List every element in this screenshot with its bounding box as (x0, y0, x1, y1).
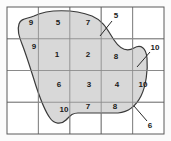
cell-number: 7 (86, 19, 90, 27)
cell-number: 10 (139, 81, 148, 89)
figure-canvas: 9579128634101078 5106 (0, 0, 171, 141)
cell-number: 9 (32, 43, 36, 51)
cell-number: 4 (115, 81, 119, 89)
cell-number: 1 (55, 51, 59, 59)
cell-number: 10 (60, 106, 69, 114)
cell-number: 5 (56, 19, 60, 27)
callout-label: 5 (114, 12, 118, 20)
cell-number: 8 (113, 103, 117, 111)
cell-number: 2 (86, 51, 90, 59)
callout-label: 6 (148, 122, 152, 130)
cell-number: 9 (29, 19, 33, 27)
cell-number: 3 (87, 81, 91, 89)
cell-number: 8 (114, 53, 118, 61)
callout-label: 10 (151, 44, 160, 52)
cell-number: 6 (57, 81, 61, 89)
cell-number: 7 (86, 103, 90, 111)
